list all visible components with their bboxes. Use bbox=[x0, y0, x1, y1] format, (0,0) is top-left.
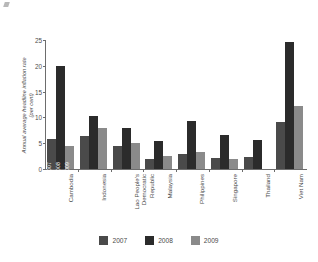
category-label-line: Republic bbox=[148, 174, 155, 222]
bar-group-bars bbox=[242, 40, 275, 169]
corner-artifact-mark bbox=[3, 2, 10, 7]
legend-item[interactable]: 2007 bbox=[99, 236, 127, 245]
bar[interactable] bbox=[211, 158, 220, 169]
bar[interactable] bbox=[196, 152, 205, 169]
category-label-line: Thailand bbox=[264, 174, 271, 222]
bar[interactable] bbox=[244, 157, 253, 169]
bar[interactable] bbox=[122, 128, 131, 169]
legend-swatch bbox=[99, 236, 108, 245]
x-axis-category-labels: CambodiaIndonesiaLao People'sDemocraticR… bbox=[45, 174, 307, 224]
inflation-bar-chart: Annual average headline inflation rate (… bbox=[0, 0, 318, 262]
bar[interactable] bbox=[294, 106, 303, 169]
x-axis-tick-mark bbox=[78, 169, 79, 172]
x-axis-tick-mark bbox=[111, 169, 112, 172]
legend-label: 2008 bbox=[158, 237, 173, 244]
legend-label: 2009 bbox=[204, 237, 219, 244]
bar-group-bars: 200720082009 bbox=[45, 40, 78, 169]
bar-group-bars bbox=[176, 40, 209, 169]
bar[interactable] bbox=[80, 136, 89, 169]
bar[interactable] bbox=[285, 42, 294, 169]
plot-area: 0510152025 200720082009 bbox=[45, 40, 307, 169]
bar-group-bars bbox=[274, 40, 307, 169]
bar-group-bars bbox=[209, 40, 242, 169]
legend-swatch bbox=[145, 236, 154, 245]
bar[interactable] bbox=[253, 140, 262, 169]
legend-label: 2007 bbox=[112, 237, 127, 244]
bar[interactable] bbox=[276, 122, 285, 169]
bar[interactable] bbox=[98, 128, 107, 169]
bar-group-bars bbox=[78, 40, 111, 169]
bar-group: 200720082009 bbox=[45, 40, 78, 169]
bar-value-annotation: 2008 bbox=[55, 162, 61, 174]
bar[interactable] bbox=[145, 159, 154, 169]
bar-group bbox=[209, 40, 242, 169]
bar[interactable] bbox=[229, 159, 238, 169]
category-label-line: Democratic bbox=[140, 174, 147, 222]
legend-item[interactable]: 2009 bbox=[191, 236, 219, 245]
bar[interactable] bbox=[178, 154, 187, 169]
bar-group-bars bbox=[143, 40, 176, 169]
bar-group-bars bbox=[111, 40, 144, 169]
bar[interactable] bbox=[163, 156, 172, 169]
legend-item[interactable]: 2008 bbox=[145, 236, 173, 245]
chart-legend: 200720082009 bbox=[0, 236, 318, 245]
bar[interactable] bbox=[154, 141, 163, 169]
category-label-line: Indonesia bbox=[100, 174, 107, 222]
bar-group bbox=[78, 40, 111, 169]
x-axis-tick-mark bbox=[242, 169, 243, 172]
bar-group bbox=[242, 40, 275, 169]
y-axis-title-line1: Annual average headline inflation rate bbox=[21, 57, 27, 153]
category-label-line: Philippines bbox=[198, 174, 205, 222]
bar-group bbox=[143, 40, 176, 169]
legend-swatch bbox=[191, 236, 200, 245]
y-axis-title: Annual average headline inflation rate (… bbox=[21, 30, 35, 180]
bar-value-annotation: 2007 bbox=[46, 162, 52, 174]
bar-group bbox=[176, 40, 209, 169]
category-label-line: Singapore bbox=[231, 174, 238, 222]
x-axis-tick-mark bbox=[176, 169, 177, 172]
bar[interactable] bbox=[131, 143, 140, 169]
bar[interactable] bbox=[187, 121, 196, 170]
bar[interactable]: 2008 bbox=[56, 66, 65, 169]
x-axis-tick-mark bbox=[209, 169, 210, 172]
bar-group bbox=[111, 40, 144, 169]
category-label-line: Viet Nam bbox=[297, 174, 304, 222]
bar-group bbox=[274, 40, 307, 169]
category-label-line: Cambodia bbox=[67, 174, 74, 222]
category-label-line: Malaysia bbox=[166, 174, 173, 222]
bar[interactable] bbox=[89, 116, 98, 169]
x-axis-tick-mark bbox=[143, 169, 144, 172]
bar[interactable] bbox=[113, 146, 122, 169]
bar[interactable]: 2009 bbox=[65, 146, 74, 169]
bar-groups: 200720082009 bbox=[45, 40, 307, 169]
bar-value-annotation: 2009 bbox=[64, 162, 70, 174]
bar[interactable] bbox=[220, 135, 229, 169]
x-axis-tick-mark bbox=[274, 169, 275, 172]
y-axis-title-line2: (per cent) bbox=[28, 30, 35, 180]
category-label-line: Lao People's bbox=[133, 174, 140, 222]
